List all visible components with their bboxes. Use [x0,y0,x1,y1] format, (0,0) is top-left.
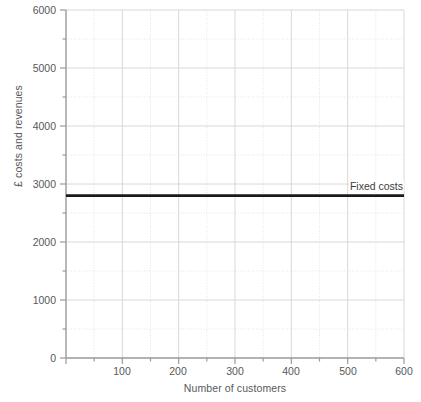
y-tick-label: 0 [16,353,56,364]
x-tick-label: 600 [384,366,421,377]
break-even-chart: £ costs and revenues 6000 5000 4000 3000… [0,0,421,402]
x-tick-label: 200 [158,366,198,377]
y-tick-label: 3000 [16,179,56,190]
x-axis-title: Number of customers [66,382,404,394]
plot-area: Fixed costs [66,10,404,358]
y-tick-label: 5000 [16,63,56,74]
y-tick-label: 2000 [16,237,56,248]
x-tick-label: 400 [271,366,311,377]
x-tick-label: 300 [215,366,255,377]
y-tick-label: 6000 [16,5,56,16]
y-tick-label-group: 6000 5000 4000 3000 2000 1000 0 [0,0,56,402]
y-tick-label: 1000 [16,295,56,306]
x-tick-label: 100 [102,366,142,377]
y-tick-label: 4000 [16,121,56,132]
series-label-fixed-costs: Fixed costs [349,180,404,192]
x-tick-label: 500 [328,366,368,377]
